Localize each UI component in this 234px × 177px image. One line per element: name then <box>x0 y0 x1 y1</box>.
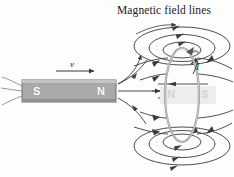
current-label: I <box>196 62 199 72</box>
upper-side-arc-arrows <box>152 60 160 82</box>
ghost-magnet-north-label: N <box>167 88 175 100</box>
velocity-label: v <box>70 59 74 69</box>
ghost-magnet-south-label: S <box>201 88 208 100</box>
figure-canvas: Magnetic field lines v I S N N S <box>0 0 234 177</box>
south-pole-field-stubs <box>1 77 22 105</box>
magnet-south-pole-label: S <box>33 85 40 97</box>
magnet-north-pole-label: N <box>97 85 105 97</box>
lower-field-loops <box>134 127 230 165</box>
title-leader-line <box>136 25 176 34</box>
lower-side-arc-arrows <box>152 115 160 136</box>
upper-field-loops <box>134 27 230 65</box>
field-line-arrowheads-mid <box>131 73 138 111</box>
page-title: Magnetic field lines <box>117 4 211 16</box>
